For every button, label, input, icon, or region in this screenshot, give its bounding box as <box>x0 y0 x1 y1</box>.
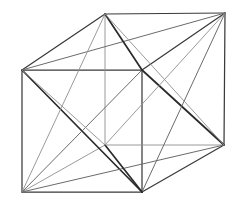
cube-diagonals-group <box>22 13 225 192</box>
back-face-right <box>224 13 225 145</box>
left-face-diagonal-main <box>22 70 105 145</box>
cube-wireframe-svg <box>0 0 237 201</box>
connector-bot-right <box>142 145 224 192</box>
connector-top-right <box>142 13 225 70</box>
top-face-diagonal-alt <box>105 14 142 70</box>
right-face-diagonal-main <box>142 70 224 145</box>
left-face-diagonal-alt <box>22 14 105 192</box>
bottom-face-diagonal-alt <box>105 145 142 192</box>
connector-top-left <box>22 14 105 70</box>
connector-bot-left <box>22 145 105 192</box>
figure-canvas <box>0 0 237 201</box>
back-face-top <box>105 13 225 14</box>
back-face-diagonal-alt <box>105 13 225 145</box>
right-face-diagonal-alt <box>142 13 225 192</box>
cube-edges-group <box>22 13 225 192</box>
